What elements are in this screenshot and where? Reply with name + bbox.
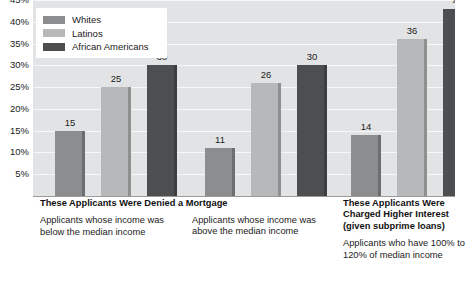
bar-face: [205, 148, 232, 196]
legend-swatch-african-americans: [43, 43, 65, 51]
bar-side-face: [378, 135, 381, 196]
legend-item-african-americans: African Americans: [43, 40, 161, 54]
legend-item-latinos: Latinos: [43, 27, 161, 41]
gridline: [33, 131, 455, 132]
bar-face: [297, 65, 324, 196]
bar-face: [351, 135, 378, 196]
bar-face: [101, 87, 128, 196]
y-axis-tick-label: 35%: [10, 39, 29, 49]
y-axis-tick-label: 40%: [10, 17, 29, 27]
y-axis-tick-label: 20%: [10, 104, 29, 114]
bar-value-label: 14: [351, 122, 381, 132]
y-axis-tick-label: 30%: [10, 60, 29, 70]
bar-value-label: 43: [443, 0, 455, 6]
bar-value-label: 25: [101, 74, 131, 84]
gridline: [33, 152, 455, 153]
legend-item-whites: Whites: [43, 13, 161, 27]
bar: [55, 131, 85, 196]
gridline: [33, 0, 455, 1]
bar-side-face: [82, 131, 85, 196]
bar-side-face: [324, 65, 327, 196]
bar-face: [397, 39, 424, 196]
bar-face: [147, 65, 174, 196]
gridline: [33, 174, 455, 175]
gridline: [33, 65, 455, 66]
y-axis-tick-label: 25%: [10, 82, 29, 92]
bar: [397, 39, 427, 196]
caption-heading-denied: These Applicants Were Denied a Mortgage: [40, 198, 330, 209]
bar: [251, 83, 281, 196]
legend-swatch-whites: [43, 16, 65, 24]
bar-side-face: [278, 83, 281, 196]
gridline: [33, 87, 455, 88]
legend-label-latinos: Latinos: [72, 28, 103, 39]
bar-side-face: [232, 148, 235, 196]
legend-swatch-latinos: [43, 29, 65, 37]
caption-group-higher-interest: These Applicants Were Charged Higher Int…: [343, 198, 471, 261]
gridline: [33, 109, 455, 110]
caption-row: These Applicants Were Denied a Mortgage …: [0, 198, 474, 285]
y-axis: 5%10%15%20%25%30%35%40%45%: [0, 0, 31, 200]
y-axis-tick-label: 5%: [15, 169, 29, 179]
bar-value-label: 36: [397, 26, 427, 36]
y-axis-tick-label: 45%: [10, 0, 29, 5]
bar-side-face: [424, 39, 427, 196]
caption-sub-below-median: Applicants whose income was below the me…: [40, 215, 176, 238]
axis-baseline: [33, 196, 455, 197]
y-axis-tick-label: 15%: [10, 126, 29, 136]
legend-label-whites: Whites: [72, 14, 101, 25]
legend-label-african-americans: African Americans: [72, 41, 149, 52]
bar: [351, 135, 381, 196]
bar: [205, 148, 235, 196]
bar-value-label: 11: [205, 135, 235, 145]
bar-value-label: 26: [251, 70, 281, 80]
bar-side-face: [128, 87, 131, 196]
bar-face: [251, 83, 278, 196]
bar-value-label: 30: [297, 52, 327, 62]
bar-value-label: 15: [55, 118, 85, 128]
bar: [443, 9, 455, 196]
chart-legend: Whites Latinos African Americans: [36, 8, 167, 58]
chart-container: Mortgage Lending Disparity by Race and I…: [0, 0, 474, 285]
bar: [297, 65, 327, 196]
caption-group-above-median: Applicants whose income was above the me…: [192, 215, 332, 238]
caption-sub-higher-interest: Applicants who have 100% to 120% of medi…: [343, 238, 471, 261]
caption-sub-above-median: Applicants whose income was above the me…: [192, 215, 330, 238]
bar-side-face: [174, 65, 177, 196]
y-axis-tick-label: 10%: [10, 147, 29, 157]
bar: [101, 87, 131, 196]
caption-heading-higher-interest: These Applicants Were Charged Higher Int…: [343, 198, 471, 232]
bar: [147, 65, 177, 196]
bar-face: [443, 9, 455, 196]
bar-face: [55, 131, 82, 196]
